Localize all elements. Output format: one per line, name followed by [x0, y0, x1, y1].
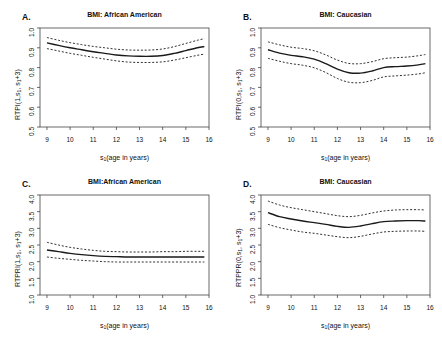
cut-off-header-text: [3, 0, 439, 5]
series-D-estimate: [268, 213, 425, 228]
series-B-lower-95-ci: [268, 58, 425, 83]
figure-canvas: A.BMI: African AmericanRTPI(1,s1, s1+3)s…: [0, 0, 442, 341]
plot-area-B: [221, 6, 442, 173]
series-D-lower-95-ci: [268, 224, 425, 237]
plot-area-C: [0, 173, 221, 341]
panel-C: C.BMI:African AmericanRTPRI(1,s1, s1+3)s…: [0, 173, 221, 341]
series-A-estimate: [47, 43, 204, 57]
plot-area-D: [221, 173, 442, 341]
panel-D: D.BMI: CaucasianRTPPR(0,s1, s1+3)s1(age …: [221, 173, 442, 341]
series-B-estimate: [268, 50, 425, 74]
series-C-upper-95-ci: [47, 242, 204, 252]
series-C-lower-95-ci: [47, 257, 204, 262]
panel-B: B.BMI: CaucasianRTPI(0,s1, s1+3)s1(age i…: [221, 6, 442, 173]
series-B-upper-95-ci: [268, 42, 425, 64]
series-D-upper-95-ci: [268, 201, 425, 217]
panel-A: A.BMI: African AmericanRTPI(1,s1, s1+3)s…: [0, 6, 221, 173]
plot-area-A: [0, 6, 221, 173]
